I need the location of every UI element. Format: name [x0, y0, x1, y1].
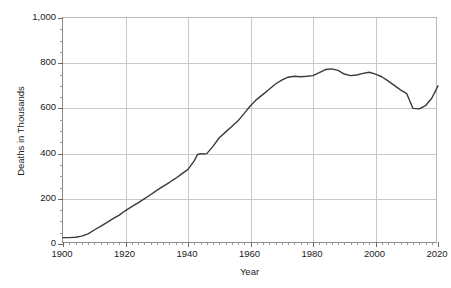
x-tick-label: 1960 [230, 248, 270, 259]
x-axis-title: Year [62, 266, 437, 277]
x-tick-label: 1940 [167, 248, 207, 259]
line-chart: Deaths in Thousands 02004006008001,000 1… [0, 0, 451, 288]
y-tick-label: 0 [12, 238, 56, 248]
y-tick-label: 800 [12, 57, 56, 67]
x-tick-label: 1980 [292, 248, 332, 259]
x-tick-label: 2000 [355, 248, 395, 259]
y-tick-label: 400 [12, 148, 56, 158]
y-axis-tick-labels: 02004006008001,000 [8, 17, 56, 243]
x-tick-mark [438, 242, 439, 247]
y-tick-label: 600 [12, 102, 56, 112]
y-tick-label: 1,000 [12, 12, 56, 22]
x-tick-label: 2020 [417, 248, 451, 259]
x-axis-tick-labels: 1900192019401960198020002020 [62, 248, 437, 262]
x-tick-label: 1900 [42, 248, 82, 259]
plot-area [62, 17, 437, 243]
x-tick-label: 1920 [105, 248, 145, 259]
data-series-line [63, 18, 438, 244]
y-tick-label: 200 [12, 193, 56, 203]
